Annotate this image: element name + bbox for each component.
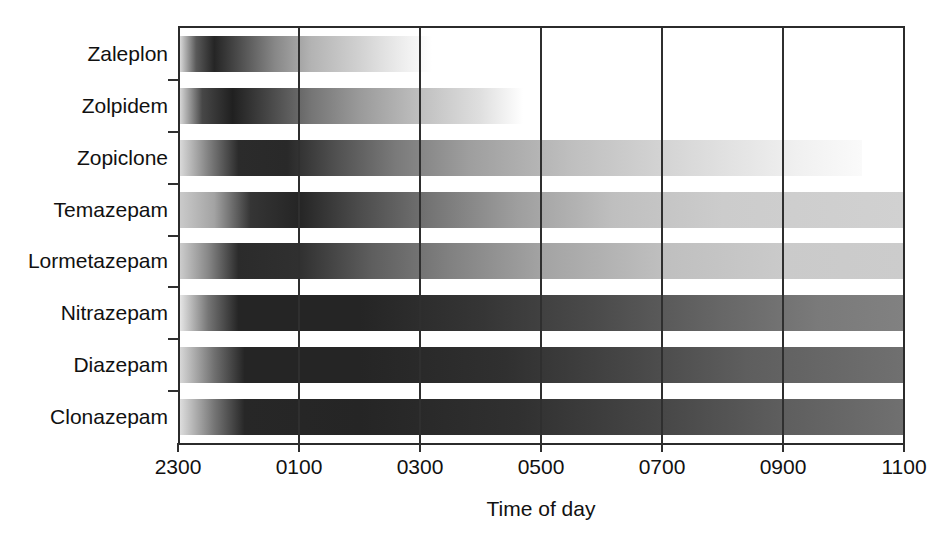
x-tick-0100 (298, 443, 300, 452)
y-axis-label-zaleplon: Zaleplon (87, 42, 168, 66)
y-axis-label-zopiclone: Zopiclone (77, 146, 168, 170)
gridline-0900 (782, 28, 784, 443)
x-tick-2300 (177, 443, 179, 452)
x-tick-1100 (903, 443, 905, 452)
x-tick-0500 (540, 443, 542, 452)
x-tick-label-0100: 0100 (276, 455, 323, 479)
y-axis-labels: ZaleplonZolpidemZopicloneTemazepamLormet… (0, 0, 168, 553)
bar-zolpidem (178, 88, 523, 124)
plot-right-border (903, 26, 905, 445)
x-tick-label-1100: 1100 (881, 455, 926, 479)
y-axis-label-clonazepam: Clonazepam (50, 405, 168, 429)
y-axis-label-temazepam: Temazepam (54, 198, 168, 222)
bar-zaleplon (178, 36, 432, 72)
y-axis-line (178, 26, 180, 445)
x-tick-0700 (661, 443, 663, 452)
y-axis-label-diazepam: Diazepam (73, 353, 168, 377)
y-axis-label-nitrazepam: Nitrazepam (61, 301, 168, 325)
x-tick-label-2300: 2300 (155, 455, 202, 479)
x-tick-0300 (419, 443, 421, 452)
plot-top-border (178, 26, 905, 28)
x-tick-0900 (782, 443, 784, 452)
chart-figure: ZaleplonZolpidemZopicloneTemazepamLormet… (0, 0, 950, 553)
x-tick-label-0900: 0900 (760, 455, 807, 479)
bar-zopiclone (178, 140, 862, 176)
gridline-0500 (540, 28, 542, 443)
x-tick-label-0700: 0700 (639, 455, 686, 479)
gridline-0700 (661, 28, 663, 443)
y-axis-label-lormetazepam: Lormetazepam (28, 249, 168, 273)
gridline-0100 (298, 28, 300, 443)
x-tick-label-0500: 0500 (518, 455, 565, 479)
y-axis-label-zolpidem: Zolpidem (82, 94, 168, 118)
gridline-0300 (419, 28, 421, 443)
x-axis-title: Time of day (178, 497, 904, 521)
x-tick-label-0300: 0300 (397, 455, 444, 479)
